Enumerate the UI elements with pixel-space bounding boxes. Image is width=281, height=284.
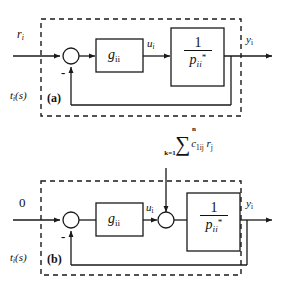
sigma-upper-limit: n (158, 126, 230, 133)
panel-b-mid-signal-label: ui (146, 202, 154, 213)
panel-a-caption: (a) (47, 92, 61, 104)
panel-b-controller-label: gii (108, 212, 120, 226)
panel-b-caption: (b) (47, 253, 62, 265)
panel-a-input-label: ri (17, 28, 24, 40)
panel-b-disturbance-label: ti(s) (10, 252, 27, 263)
panel-a-minus-sign: - (61, 66, 65, 79)
panel-a-mid-signal-label: ui (147, 38, 155, 49)
panel-a-plant-numerator: 1 (181, 36, 215, 49)
panel-a-fraction-bar (184, 50, 212, 51)
panel-a-plant-denominator: pii* (181, 52, 215, 69)
panel-b-minus-sign: - (61, 230, 65, 243)
panel-b-external-sum-expression: n ∑ c1ij rj k=1 (158, 126, 230, 160)
panel-b-output-label: yi (246, 198, 253, 209)
block-diagram-figure: ri - gii ui 1 pii* yi ti(s) (a) n ∑ c1ij… (0, 0, 281, 284)
sigma-term: c1ij rj (190, 137, 213, 149)
panel-b-input-label: 0 (19, 196, 26, 209)
panel-b-plant-denominator: pii* (197, 217, 231, 234)
panel-b-summing-junction-1 (63, 212, 79, 228)
panel-b-plant-numerator: 1 (197, 201, 231, 214)
panel-a-summing-junction (63, 48, 79, 64)
panel-a-output-label: yi (246, 34, 253, 45)
panel-a-plant-fraction: 1 pii* (181, 36, 215, 69)
panel-a-disturbance-label: ti(s) (10, 90, 27, 101)
panel-a-controller-label: gii (108, 48, 120, 62)
sigma-lower-limit: k=1 (134, 150, 206, 157)
panel-b-plant-fraction: 1 pii* (197, 201, 231, 234)
diagram-canvas (0, 0, 281, 284)
panel-b-fraction-bar (200, 215, 228, 216)
panel-b-summing-junction-2 (158, 212, 174, 228)
